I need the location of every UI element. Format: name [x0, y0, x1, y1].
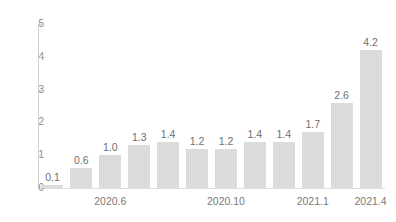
bar — [99, 155, 121, 188]
plot-area: 0.10.61.01.31.41.21.21.41.41.72.64.2 — [38, 24, 385, 188]
x-axis-tick-label: 2021.1 — [283, 194, 343, 208]
bar — [128, 145, 150, 188]
bar — [215, 149, 237, 188]
bar-chart: 012345 0.10.61.01.31.41.21.21.41.41.72.6… — [0, 0, 396, 222]
bar — [70, 168, 92, 188]
x-axis-tick-label: 2020.6 — [80, 194, 140, 208]
bar — [331, 103, 353, 188]
bar — [360, 50, 382, 188]
bar-value-label: 2.6 — [325, 89, 359, 102]
bar — [244, 142, 266, 188]
bar-value-label: 1.7 — [296, 118, 330, 131]
x-axis-tick-label: 2021.4 — [341, 194, 396, 208]
bar-value-label: 4.2 — [354, 36, 388, 49]
bar — [157, 142, 179, 188]
bar — [302, 132, 324, 188]
bar-value-label: 0.6 — [64, 154, 98, 167]
bar — [41, 185, 63, 188]
x-axis-tick-label: 2020.10 — [196, 194, 256, 208]
bar — [186, 149, 208, 188]
bar-value-label: 0.1 — [35, 171, 69, 184]
x-axis-line — [38, 188, 385, 189]
bar — [273, 142, 295, 188]
